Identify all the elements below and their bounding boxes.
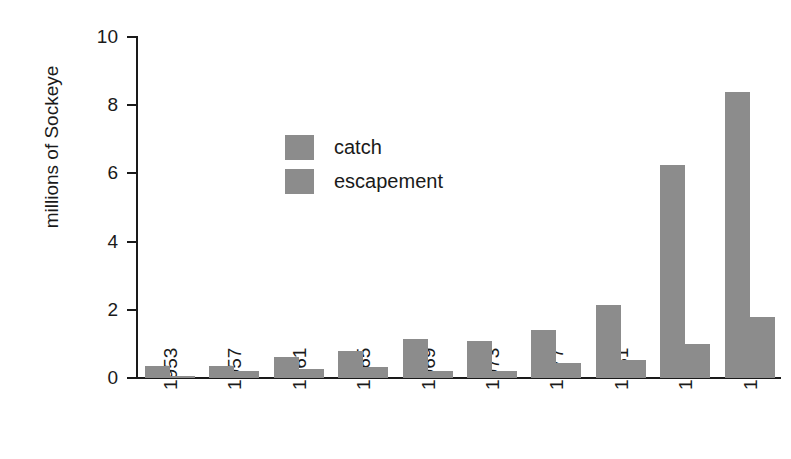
y-tick-mark-10 [127, 36, 136, 38]
y-tick-label-2: 2 [78, 300, 118, 319]
legend-label-catch: catch [334, 136, 382, 159]
y-tick-label-6: 6 [78, 163, 118, 182]
bar-catch-1989 [725, 92, 750, 378]
bar-catch-1981 [596, 305, 621, 378]
bar-escapement-1981 [621, 360, 646, 378]
legend-swatch-escapement [285, 169, 314, 194]
bar-escapement-1965 [363, 367, 388, 378]
bar-escapement-1985 [685, 344, 710, 378]
faint-title-text [150, 0, 620, 4]
y-tick-label-10: 10 [78, 27, 118, 46]
bar-escapement-1969 [428, 371, 453, 378]
plot-area [137, 37, 781, 378]
y-axis-title: millions of Sockeye [41, 37, 63, 257]
bar-escapement-1977 [556, 363, 581, 378]
bar-escapement-1989 [750, 317, 775, 378]
y-tick-mark-0 [127, 377, 136, 379]
y-tick-label-8: 8 [78, 95, 118, 114]
chart-figure: millions of Sockeye 0246810 195319571961… [0, 0, 791, 459]
legend-item-catch: catch [285, 130, 443, 164]
bar-catch-1973 [467, 341, 492, 378]
bar-catch-1985 [660, 165, 685, 378]
bar-catch-1969 [403, 339, 428, 378]
y-tick-mark-6 [127, 172, 136, 174]
legend-item-escapement: escapement [285, 164, 443, 198]
y-tick-mark-4 [127, 241, 136, 243]
bar-catch-1953 [145, 366, 170, 378]
bar-escapement-1973 [492, 371, 517, 378]
legend-swatch-catch [285, 135, 314, 160]
bar-catch-1977 [531, 330, 556, 378]
bar-escapement-1961 [299, 369, 324, 378]
legend-label-escapement: escapement [334, 170, 443, 193]
y-tick-label-0: 0 [78, 368, 118, 387]
legend: catch escapement [285, 130, 443, 198]
y-tick-mark-8 [127, 104, 136, 106]
bar-escapement-1953 [170, 376, 195, 378]
y-tick-label-4: 4 [78, 232, 118, 251]
bar-escapement-1957 [234, 371, 259, 379]
y-tick-mark-2 [127, 309, 136, 311]
bar-catch-1957 [209, 366, 234, 378]
bar-catch-1965 [338, 351, 363, 378]
bar-catch-1961 [274, 357, 299, 378]
